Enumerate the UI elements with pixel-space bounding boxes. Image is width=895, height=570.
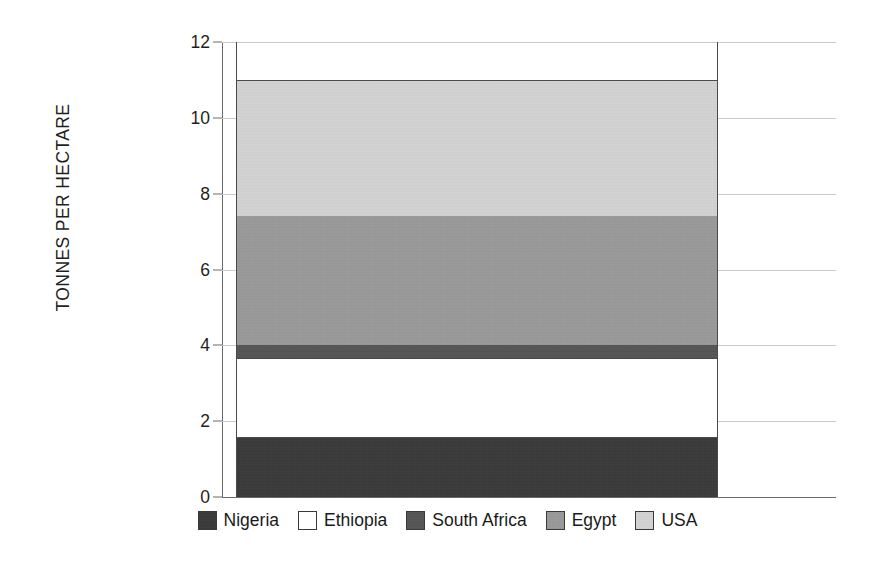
texture-overlay [237,81,717,216]
y-tick-mark-0 [213,497,222,498]
y-tick-label-0: 0 [150,487,210,508]
y-tick-mark-12 [213,42,222,43]
legend-swatch-icon [546,511,565,530]
y-tick-mark-10 [213,117,222,118]
y-tick-mark-6 [213,269,222,270]
texture-overlay [407,512,424,529]
legend-swatch-icon [406,511,425,530]
y-tick-label-12: 12 [150,32,210,53]
stacked-bar-chart: TONNES PER HECTARE 121086420 NigeriaEthi… [0,0,895,570]
y-tick-mark-2 [213,421,222,422]
y-tick-label-2: 2 [150,411,210,432]
legend-label: Nigeria [224,512,279,530]
legend-label: USA [661,512,697,530]
y-tick-label-8: 8 [150,183,210,204]
stacked-bar-column[interactable] [236,42,718,497]
legend-swatch-icon [635,511,654,530]
bar-segment-ethiopia[interactable] [237,358,717,438]
y-axis-title: TONNES PER HECTARE [53,43,74,373]
legend-item-south-africa[interactable]: South Africa [406,511,526,530]
legend-item-nigeria[interactable]: Nigeria [198,511,279,530]
y-tick-mark-8 [213,193,222,194]
legend-label: Ethiopia [324,512,387,530]
legend-item-ethiopia[interactable]: Ethiopia [298,511,387,530]
bar-segment-egypt[interactable] [237,216,717,345]
legend-label: South Africa [432,512,526,530]
chart-legend: NigeriaEthiopiaSouth AfricaEgyptUSA [0,511,895,530]
y-tick-mark-4 [213,345,222,346]
legend-swatch-icon [198,511,217,530]
y-tick-label-10: 10 [150,107,210,128]
bar-segment-nigeria[interactable] [237,438,717,497]
plot-area [222,42,836,497]
legend-label: Egypt [572,512,617,530]
bar-segment-south-africa[interactable] [237,345,717,358]
texture-overlay [237,438,717,497]
y-axis-tick-labels: 121086420 [142,42,210,497]
texture-overlay [547,512,564,529]
legend-item-egypt[interactable]: Egypt [546,511,617,530]
y-tick-label-6: 6 [150,259,210,280]
texture-overlay [237,345,717,358]
legend-item-usa[interactable]: USA [635,511,697,530]
texture-overlay [636,512,653,529]
y-tick-label-4: 4 [150,335,210,356]
gridline-0 [222,497,836,498]
texture-overlay [237,216,717,345]
bar-segment-usa[interactable] [237,80,717,216]
texture-overlay [199,512,216,529]
legend-swatch-icon [298,511,317,530]
